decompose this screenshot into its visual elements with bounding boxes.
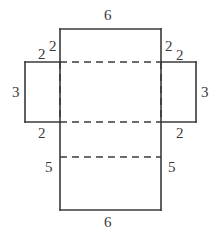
label-bottom-width: 6 [104, 215, 112, 230]
label-top-right-inner: 2 [165, 39, 173, 54]
label-top-left-inner: 2 [49, 39, 57, 54]
box-net-figure: 6 2 2 2 2 3 3 2 2 5 5 6 [0, 0, 220, 240]
label-bottom-left-five: 5 [45, 160, 53, 175]
solid-outline [25, 29, 196, 210]
label-mid-right-lower: 2 [176, 126, 184, 141]
label-bottom-right-five: 5 [168, 160, 176, 175]
label-mid-left-lower: 2 [38, 126, 46, 141]
label-top-right-outer: 2 [176, 48, 184, 63]
label-top-left-outer: 2 [38, 47, 46, 62]
label-right-flap-height: 3 [201, 85, 209, 100]
fold-lines [60, 62, 161, 157]
net-drawing [0, 0, 220, 240]
label-left-flap-height: 3 [12, 85, 20, 100]
label-top-width: 6 [104, 8, 112, 23]
